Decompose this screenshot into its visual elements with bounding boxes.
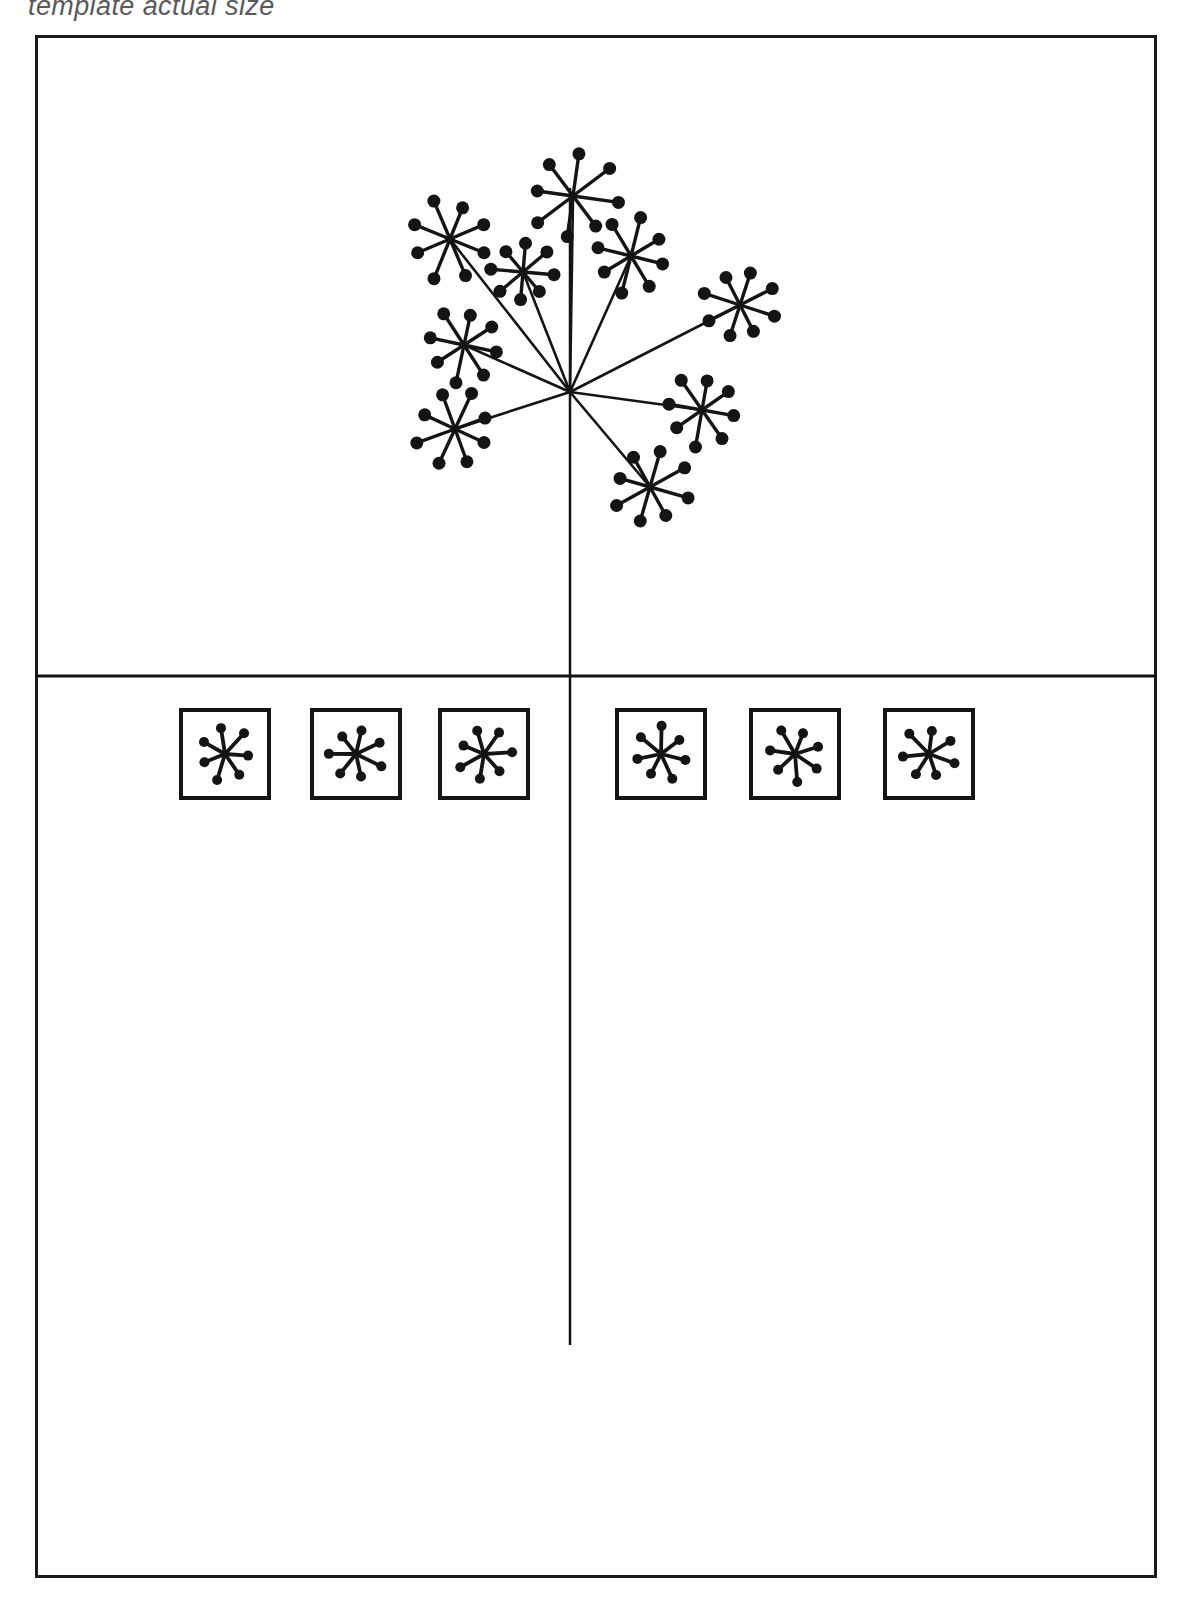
page-canvas: template actual size xyxy=(0,0,1185,1599)
page-caption: template actual size xyxy=(28,0,275,22)
template-frame-border xyxy=(35,35,1157,1578)
